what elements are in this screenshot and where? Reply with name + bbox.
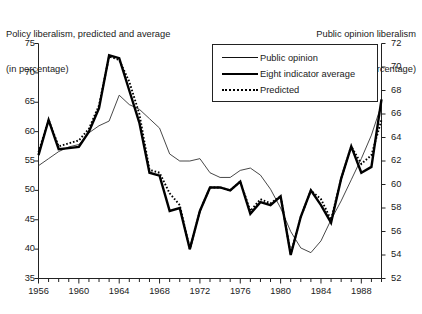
x-axis-tick-label-1980: 1980 (261, 286, 301, 296)
y-axis-tick-label-35: 35 (25, 273, 35, 283)
y2-axis-tick-label-72: 72 (391, 38, 401, 48)
legend-label-0: Public opinion (260, 53, 318, 63)
y-axis-tick-label-50: 50 (25, 184, 35, 194)
x-axis-tick-label-1968: 1968 (140, 286, 180, 296)
line-swatch-thick-icon (220, 68, 260, 80)
x-axis-tick-label-1972: 1972 (180, 286, 220, 296)
y2-axis-tick-label-58: 58 (391, 202, 401, 212)
y2-axis-tick-label-70: 70 (391, 61, 401, 71)
y2-axis-tick-label-68: 68 (391, 85, 401, 95)
y2-axis-tick-label-60: 60 (391, 179, 401, 189)
y2-axis-tick-label-64: 64 (391, 132, 401, 142)
y2-axis-tick-label-52: 52 (391, 273, 401, 283)
y-axis-tick-label-40: 40 (25, 243, 35, 253)
legend-item-predicted: Predicted (220, 82, 371, 98)
legend-label-2: Predicted (260, 85, 299, 95)
x-axis-tick-label-1976: 1976 (220, 286, 260, 296)
x-axis-tick-label-1984: 1984 (301, 286, 341, 296)
line-swatch-dotted-icon (220, 84, 260, 96)
y-axis-tick-label-60: 60 (25, 126, 35, 136)
chart-figure: Policy liberalism, predicted and average… (0, 0, 422, 314)
y-axis-tick-label-55: 55 (25, 155, 35, 165)
x-axis-tick-label-1960: 1960 (59, 286, 99, 296)
chart-legend: Public opinion Eight indicator average P… (212, 44, 378, 102)
legend-item-public-opinion: Public opinion (220, 50, 371, 66)
y2-axis-tick-label-66: 66 (391, 108, 401, 118)
y2-axis-tick-label-54: 54 (391, 249, 401, 259)
y2-axis-tick-label-62: 62 (391, 155, 401, 165)
y-axis-tick-label-75: 75 (25, 38, 35, 48)
y-axis-tick-label-70: 70 (25, 67, 35, 77)
legend-item-eight-indicator-average: Eight indicator average (220, 66, 371, 82)
series-line-public-opinion (39, 95, 382, 252)
y2-axis-tick-label-56: 56 (391, 226, 401, 236)
line-swatch-thin-icon (220, 52, 260, 64)
x-axis-tick-label-1988: 1988 (341, 286, 381, 296)
x-axis-tick-label-1964: 1964 (99, 286, 139, 296)
y-axis-tick-label-65: 65 (25, 96, 35, 106)
y-axis-tick-label-45: 45 (25, 214, 35, 224)
x-axis-tick-label-1956: 1956 (19, 286, 59, 296)
legend-label-1: Eight indicator average (260, 69, 355, 79)
